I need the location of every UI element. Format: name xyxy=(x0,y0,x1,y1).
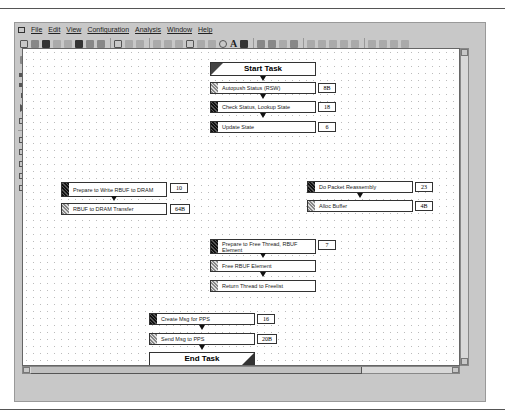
end-task-node[interactable]: End Task xyxy=(149,352,255,366)
skew-icon[interactable] xyxy=(340,40,348,48)
pointer-icon[interactable] xyxy=(114,40,122,48)
node-prepare-write[interactable]: Prepare to Write RBUF to DRAM xyxy=(61,182,167,197)
node-autopush[interactable]: Autopush Status (RSW) xyxy=(210,82,316,94)
node-value: 6 xyxy=(318,122,336,132)
node-value: 7 xyxy=(318,240,336,250)
menu-help[interactable]: Help xyxy=(198,26,212,33)
node-label: RBUF to DRAM Transfer xyxy=(69,206,134,212)
zoom-region-icon[interactable] xyxy=(279,40,287,48)
start-task-node[interactable]: Start Task xyxy=(210,62,316,76)
flow-arrow xyxy=(199,325,205,330)
flow-arrow xyxy=(260,76,266,81)
print-icon[interactable] xyxy=(86,40,94,48)
cut-icon[interactable] xyxy=(53,40,61,48)
flip-horizontal-icon[interactable] xyxy=(318,40,326,48)
pan-hand-icon[interactable] xyxy=(290,40,298,48)
layout-4-icon[interactable] xyxy=(401,40,409,48)
node-rbuf-transfer[interactable]: RBUF to DRAM Transfer xyxy=(61,203,167,215)
page-rule-bottom xyxy=(0,409,505,410)
node-prepare-free[interactable]: Prepare to Free Thread, RBUF Element xyxy=(210,239,316,254)
light-hatch-icon xyxy=(211,83,218,93)
node-alloc-buffer[interactable]: Alloc Buffer xyxy=(307,200,413,212)
menu-edit[interactable]: Edit xyxy=(48,26,60,33)
flow-arrow xyxy=(260,253,266,258)
text-tool-icon[interactable]: A xyxy=(230,40,237,48)
triangle-icon[interactable] xyxy=(175,40,183,48)
node-label: Send Msg to PPS xyxy=(157,336,204,342)
system-menu-icon[interactable] xyxy=(18,27,25,33)
node-label: Do Packet Reassembly xyxy=(315,184,376,190)
help-icon[interactable] xyxy=(97,40,105,48)
scroll-down-arrow-icon[interactable] xyxy=(461,358,468,365)
new-file-icon[interactable] xyxy=(20,40,28,48)
dark-hatch-icon xyxy=(211,240,218,253)
node-update-state[interactable]: Update State xyxy=(210,121,316,133)
arrow-left-icon[interactable] xyxy=(351,40,359,48)
flow-arrow xyxy=(260,113,266,118)
light-hatch-icon xyxy=(62,204,69,214)
node-value: 20B xyxy=(257,334,277,344)
node-value: 16 xyxy=(257,314,275,324)
node-label: Free RBUF Element xyxy=(218,263,272,269)
light-hatch-icon xyxy=(150,334,157,344)
dark-hatch-icon xyxy=(211,122,218,132)
select-all-icon[interactable] xyxy=(136,40,144,48)
light-hatch-icon xyxy=(211,281,218,291)
page-rule-top xyxy=(0,8,505,9)
dark-hatch-icon xyxy=(150,314,157,324)
flow-arrow xyxy=(111,196,117,201)
node-reassembly[interactable]: Do Packet Reassembly xyxy=(307,181,413,193)
node-label: Create Msg for PPS xyxy=(157,316,210,322)
horizontal-scrollbar[interactable] xyxy=(22,366,460,374)
node-label: Return Thread to Freelist xyxy=(218,283,283,289)
flow-arrow xyxy=(260,94,266,99)
zoom-fit-icon[interactable] xyxy=(268,40,276,48)
node-free-rbuf[interactable]: Free RBUF Element xyxy=(210,260,316,272)
menu-window[interactable]: Window xyxy=(167,26,192,33)
node-check-status[interactable]: Check Status, Lookup State xyxy=(210,101,316,113)
curve-icon[interactable] xyxy=(197,40,205,48)
end-task-label: End Task xyxy=(185,354,220,363)
flow-arrow xyxy=(199,345,205,350)
node-value: 23 xyxy=(415,182,433,192)
elbow-line-icon[interactable] xyxy=(164,40,172,48)
copy-icon[interactable] xyxy=(64,40,72,48)
node-value: 8B xyxy=(318,83,336,93)
select-region-icon[interactable] xyxy=(125,40,133,48)
line-icon[interactable] xyxy=(153,40,161,48)
menu-analysis[interactable]: Analysis xyxy=(135,26,161,33)
menu-configuration[interactable]: Configuration xyxy=(87,26,129,33)
scroll-up-arrow-icon[interactable] xyxy=(461,49,468,56)
dark-hatch-icon xyxy=(308,182,315,192)
polygon-icon[interactable] xyxy=(208,40,216,48)
node-value: 4B xyxy=(415,201,433,211)
horizontal-scroll-thumb[interactable] xyxy=(31,367,362,374)
vertical-scrollbar[interactable] xyxy=(460,48,469,366)
image-icon[interactable] xyxy=(240,40,248,48)
flow-arrow xyxy=(260,272,266,277)
menu-view[interactable]: View xyxy=(66,26,81,33)
node-send-msg[interactable]: Send Msg to PPS xyxy=(149,333,255,345)
start-task-label: Start Task xyxy=(244,64,282,73)
layout-2-icon[interactable] xyxy=(379,40,387,48)
rectangle-icon[interactable] xyxy=(186,40,194,48)
zoom-icon[interactable] xyxy=(257,40,265,48)
scroll-left-arrow-icon[interactable] xyxy=(23,367,30,373)
light-hatch-icon xyxy=(308,201,315,211)
node-value: 64B xyxy=(170,204,190,214)
rotate-icon[interactable] xyxy=(307,40,315,48)
open-folder-icon[interactable] xyxy=(31,40,39,48)
layout-3-icon[interactable] xyxy=(390,40,398,48)
ellipse-icon[interactable] xyxy=(219,40,227,48)
node-return-thread[interactable]: Return Thread to Freelist xyxy=(210,280,316,292)
menu-file[interactable]: File xyxy=(31,26,42,33)
diagram-canvas[interactable]: Start Task Autopush Status (RSW) 8B Chec… xyxy=(22,48,460,366)
layout-1-icon[interactable] xyxy=(368,40,376,48)
scroll-right-arrow-icon[interactable] xyxy=(452,367,459,373)
save-icon[interactable] xyxy=(42,40,50,48)
light-hatch-icon xyxy=(211,261,218,271)
node-value: 10 xyxy=(170,183,188,193)
node-create-msg[interactable]: Create Msg for PPS xyxy=(149,313,255,325)
flip-vertical-icon[interactable] xyxy=(329,40,337,48)
paste-icon[interactable] xyxy=(75,40,83,48)
